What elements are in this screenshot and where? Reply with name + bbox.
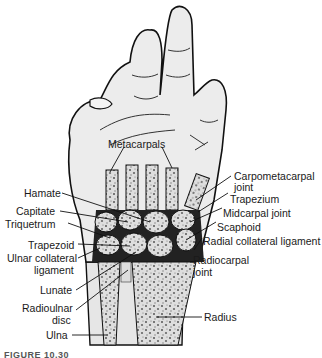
label-midcarpal-joint: Midcarpal joint: [223, 207, 291, 219]
label-trapezoid: Trapezoid: [28, 239, 74, 251]
label-ulnar-collateral-ligament-line2: ligament: [34, 264, 74, 276]
label-radiocarpal-joint: Radiocarpal: [193, 254, 249, 266]
label-radioulnar-disc-line2: disc: [52, 314, 71, 326]
label-hamate: Hamate: [24, 187, 61, 199]
figure-caption: FIGURE 10.30: [4, 350, 69, 358]
label-ulna: Ulna: [46, 329, 68, 341]
radius-bone: [132, 262, 196, 345]
label-lunate: Lunate: [40, 284, 72, 296]
label-triquetrum: Triquetrum: [5, 218, 55, 230]
label-radioulnar-disc: Radioulnar: [22, 302, 73, 314]
label-radiocarpal-joint-line2: joint: [193, 266, 212, 278]
label-ulnar-collateral-ligament: Ulnar collateral: [7, 252, 77, 264]
anatomy-figure: Metacarpals Carpometacarpal joint Hamate…: [0, 0, 322, 358]
label-radial-collateral-ligament: Radial collateral ligament: [203, 235, 320, 247]
label-scaphoid: Scaphoid: [217, 221, 261, 233]
label-capitate: Capitate: [16, 205, 55, 217]
label-metacarpals: Metacarpals: [108, 138, 165, 150]
label-carpometacarpal-joint-line2: joint: [234, 181, 253, 193]
label-radius: Radius: [204, 311, 237, 323]
label-trapezium: Trapezium: [230, 193, 279, 205]
